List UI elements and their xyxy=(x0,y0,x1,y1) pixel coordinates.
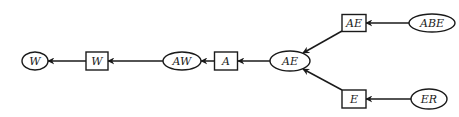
node-label: A xyxy=(221,55,230,68)
node-label: E xyxy=(349,93,358,106)
box-node-e: E xyxy=(342,90,366,108)
ellipse-node-ae: AE xyxy=(270,51,310,71)
node-label: AE xyxy=(281,55,298,68)
node-label: AE xyxy=(345,17,362,30)
dependency-graph: WWAWAAEAEABEEER xyxy=(0,0,459,117)
box-node-ae: AE xyxy=(342,15,366,32)
ellipse-node-aw: AW xyxy=(163,52,201,70)
node-label: AW xyxy=(172,55,193,68)
edge-arrow xyxy=(303,31,342,53)
box-node-w: W xyxy=(86,52,108,70)
node-label: W xyxy=(29,55,42,68)
ellipse-node-er: ER xyxy=(411,89,447,109)
ellipse-node-w: W xyxy=(22,52,48,70)
edge-arrow xyxy=(303,69,342,90)
box-node-a: A xyxy=(215,52,238,70)
node-label: ER xyxy=(420,93,437,106)
ellipse-node-abe: ABE xyxy=(409,14,455,32)
node-label: ABE xyxy=(419,17,444,30)
node-label: W xyxy=(91,55,104,68)
